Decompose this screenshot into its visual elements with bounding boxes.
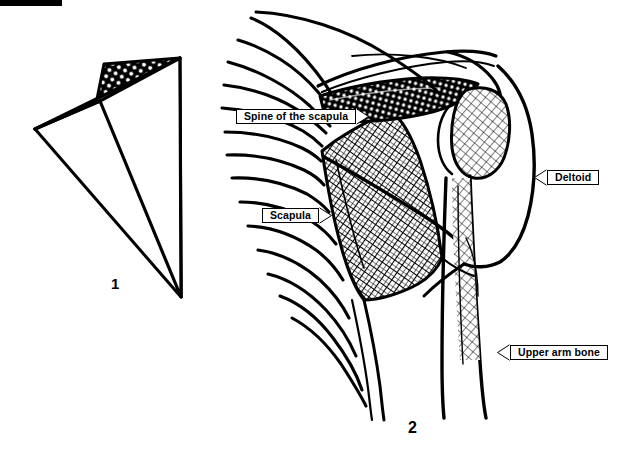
anatomy-line-art [0, 0, 625, 461]
callout-box-scapula: Scapula [262, 208, 319, 223]
humerus-head [452, 88, 510, 179]
rib-6 [225, 132, 321, 161]
scapula-plate [322, 112, 442, 300]
fig1-scapula-outline [35, 58, 181, 297]
callout-upper-arm-bone: Upper arm bone [497, 344, 608, 361]
callout-arrow-right-icon [319, 207, 332, 224]
callout-arrow-left-icon [534, 169, 547, 186]
lateral-thorax-contour [364, 300, 384, 420]
callout-box-deltoid: Deltoid [547, 170, 599, 185]
callout-box-upper-arm-bone: Upper arm bone [510, 345, 608, 360]
humerus-shaft-medial [442, 178, 446, 418]
callout-label-spine-of-the-scapula: Spine of the scapula [244, 111, 348, 122]
figure-number-1: 1 [111, 276, 119, 291]
figure-number-2: 2 [408, 420, 417, 436]
fig1-lateral-border [180, 59, 182, 297]
callout-label-deltoid: Deltoid [555, 172, 591, 183]
callout-label-upper-arm-bone: Upper arm bone [518, 347, 600, 358]
callout-label-scapula: Scapula [270, 210, 311, 221]
greater-tubercle [438, 104, 452, 174]
figure-1-group [35, 58, 182, 297]
callout-arrow-right-icon [356, 108, 369, 125]
callout-deltoid: Deltoid [534, 169, 599, 186]
illustration-page: Spine of the scapula Scapula Deltoid [0, 0, 625, 461]
callout-spine-of-the-scapula: Spine of the scapula [236, 108, 369, 125]
callout-box-spine: Spine of the scapula [236, 109, 356, 124]
callout-scapula: Scapula [262, 207, 332, 224]
rib-7 [227, 155, 324, 185]
callout-arrow-left-icon [497, 344, 510, 361]
